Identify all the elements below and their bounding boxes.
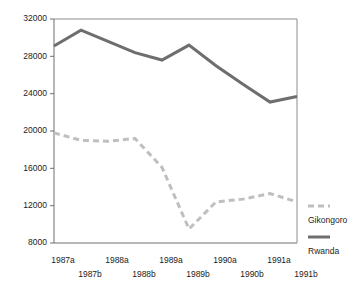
y-tick-label: 24000	[23, 88, 47, 98]
y-tick-label: 8000	[28, 237, 47, 247]
y-tick-label: 12000	[23, 200, 47, 210]
x-tick-label-1988a: 1988a	[105, 255, 129, 265]
x-tick-label-1990a: 1990a	[213, 255, 237, 265]
x-tick-label-1989a: 1989a	[159, 255, 183, 265]
x-tick-label-1988b: 1988b	[132, 269, 156, 279]
x-tick-label-1987b: 1987b	[78, 269, 102, 279]
y-axis-labels: 32000 28000 24000 20000 16000 12000 8000	[23, 13, 47, 247]
x-axis-labels-row-bottom: 1987b 1988b 1989b 1990b 1991b	[78, 269, 318, 279]
rwanda-line	[54, 30, 297, 102]
y-tick-label: 28000	[23, 51, 47, 61]
y-axis-ticks	[50, 19, 54, 243]
chart-canvas: 32000 28000 24000 20000 16000 12000 8000…	[0, 0, 364, 296]
legend-label-rwanda: Rwanda	[308, 246, 339, 256]
y-tick-label: 32000	[23, 13, 47, 23]
x-axis-labels-row-top: 1987a 1988a 1989a 1990a 1991a	[51, 255, 291, 265]
legend-label-gikongoro: Gikongoro	[308, 215, 347, 225]
x-tick-label-1987a: 1987a	[51, 255, 75, 265]
legend: Gikongoro Rwanda	[308, 206, 347, 256]
x-tick-label-1991b: 1991b	[294, 269, 318, 279]
series-rwanda	[54, 30, 297, 102]
series-gikongoro	[54, 133, 297, 229]
x-tick-label-1989b: 1989b	[186, 269, 210, 279]
x-tick-label-1991a: 1991a	[267, 255, 291, 265]
line-chart: 32000 28000 24000 20000 16000 12000 8000…	[0, 0, 364, 296]
y-tick-label: 20000	[23, 125, 47, 135]
gikongoro-line	[54, 133, 297, 229]
x-tick-label-1990b: 1990b	[240, 269, 264, 279]
y-tick-label: 16000	[23, 163, 47, 173]
